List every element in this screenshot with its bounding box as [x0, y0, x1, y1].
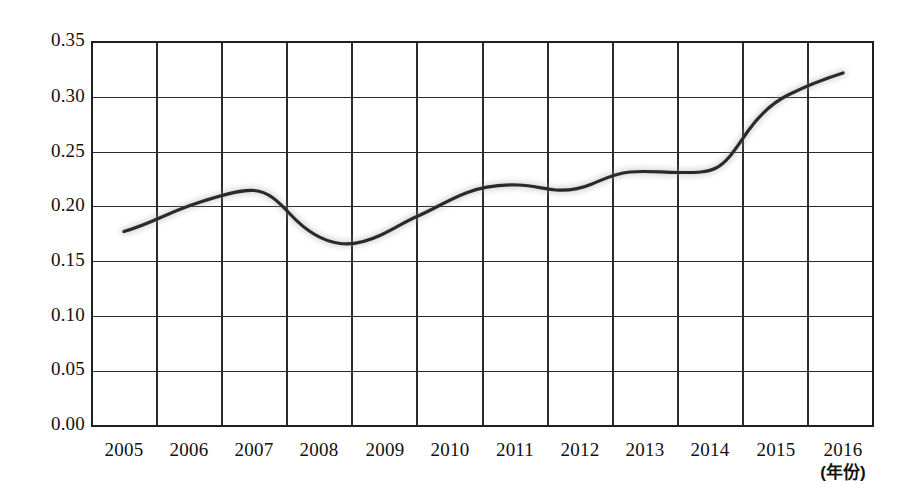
- x-tick-label-2007: 2007: [235, 439, 274, 460]
- x-tick-label-2010: 2010: [431, 439, 470, 460]
- y-axis-tick-labels: 0.35 0.30 0.25 0.20 0.15 0.10 0.05 0.00: [51, 29, 85, 434]
- x-tick-label-2008: 2008: [300, 439, 339, 460]
- y-tick-label-0.35: 0.35: [51, 29, 85, 50]
- x-tick-label-2005: 2005: [105, 439, 144, 460]
- y-tick-label-0.00: 0.00: [51, 413, 85, 434]
- x-tick-label-2011: 2011: [496, 439, 534, 460]
- y-tick-label-0.20: 0.20: [51, 194, 85, 215]
- y-tick-label-0.25: 0.25: [51, 140, 85, 161]
- x-tick-label-2006: 2006: [170, 439, 209, 460]
- line-chart: 0.35 0.30 0.25 0.20 0.15 0.10 0.05 0.00 …: [0, 0, 917, 495]
- y-tick-label-0.10: 0.10: [51, 304, 85, 325]
- x-tick-label-2014: 2014: [691, 439, 730, 460]
- y-tick-label-0.30: 0.30: [51, 85, 85, 106]
- x-tick-label-2013: 2013: [626, 439, 665, 460]
- x-tick-label-2015: 2015: [757, 439, 796, 460]
- y-tick-label-0.15: 0.15: [51, 249, 85, 270]
- x-axis-tick-labels: 2005 2006 2007 2008 2009 2010 2011 2012 …: [105, 439, 863, 460]
- x-axis-unit-label: (年份): [820, 462, 865, 482]
- x-tick-label-2009: 2009: [366, 439, 405, 460]
- x-tick-label-2012: 2012: [561, 439, 600, 460]
- y-tick-label-0.05: 0.05: [51, 358, 85, 379]
- x-tick-label-2016: 2016: [824, 439, 863, 460]
- chart-container: 0.35 0.30 0.25 0.20 0.15 0.10 0.05 0.00 …: [0, 0, 917, 495]
